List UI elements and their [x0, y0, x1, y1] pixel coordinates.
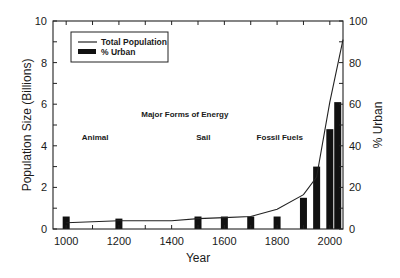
y-right-tick-label: 80 [349, 57, 361, 69]
x-tick-label: 1200 [107, 235, 131, 247]
x-tick-label: 1000 [54, 235, 78, 247]
population-urban-chart: 1000120014001600180020000246810020406080… [0, 0, 400, 278]
y-tick-label: 8 [41, 57, 47, 69]
urban-bar [334, 102, 341, 229]
energy-form-label: Animal [82, 133, 109, 142]
y-right-tick-label: 100 [349, 15, 367, 27]
x-tick-label: 1600 [212, 235, 236, 247]
energy-form-label: Sail [196, 133, 210, 142]
urban-bars [63, 102, 342, 229]
y-tick-label: 4 [41, 140, 47, 152]
y-tick-label: 2 [41, 181, 47, 193]
y-tick-label: 10 [35, 15, 47, 27]
y-tick-label: 0 [41, 223, 47, 235]
y-right-tick-label: 0 [349, 223, 355, 235]
chart-svg: 1000120014001600180020000246810020406080… [0, 0, 400, 278]
population-line [66, 40, 343, 223]
y-tick-label: 6 [41, 98, 47, 110]
legend-bar-icon [78, 49, 96, 54]
y-axis-title-left: Population Size (Billions) [20, 59, 34, 192]
x-axis-title: Year [186, 251, 210, 265]
y-right-tick-label: 40 [349, 140, 361, 152]
legend-label-urban: % Urban [101, 47, 135, 57]
energy-forms-title: Major Forms of Energy [141, 110, 229, 119]
annotations: Major Forms of EnergyAnimalSailFossil Fu… [82, 110, 304, 142]
y-right-tick-label: 60 [349, 98, 361, 110]
y-right-tick-label: 20 [349, 181, 361, 193]
y-axis-title-right: % Urban [371, 102, 385, 149]
x-tick-label: 1800 [265, 235, 289, 247]
urban-bar [326, 129, 333, 229]
urban-bar [300, 198, 307, 229]
legend-label-total-population: Total Population [101, 37, 167, 47]
legend: Total Population% Urban [71, 32, 168, 62]
energy-form-label: Fossil Fuels [257, 133, 304, 142]
x-tick-label: 2000 [318, 235, 342, 247]
x-tick-label: 1400 [159, 235, 183, 247]
